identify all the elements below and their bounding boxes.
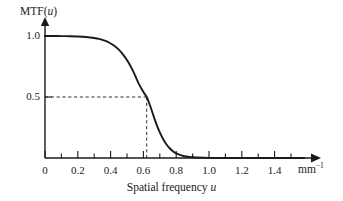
- x-axis-unit-base: mm: [298, 163, 316, 175]
- y-axis-title-close: ): [53, 5, 57, 17]
- y-axis: [41, 17, 49, 158]
- x-tick-label-0.6: 0.6: [128, 165, 158, 176]
- x-tick-label-1.4: 1.4: [260, 165, 290, 176]
- x-axis-unit-exponent: −1: [316, 161, 324, 170]
- x-tick-label-1.0: 1.0: [194, 165, 224, 176]
- mtf-figure: MTF(u) 1.0 0.5 0 0.2 0.4 0.6 0.8 1.0 1.2…: [0, 0, 343, 201]
- x-axis-ticks: [45, 151, 291, 158]
- y-tick-label-1.0: 1.0: [14, 30, 40, 41]
- x-axis-title-main: Spatial frequency: [127, 181, 211, 193]
- y-tick-label-0.5: 0.5: [14, 91, 40, 102]
- x-tick-label-0.2: 0.2: [63, 165, 93, 176]
- half-amplitude-guide: [45, 97, 147, 158]
- x-tick-label-0: 0: [30, 165, 60, 176]
- y-axis-arrowhead: [41, 17, 49, 26]
- x-tick-label-0.8: 0.8: [161, 165, 191, 176]
- x-axis-title-variable: u: [210, 181, 216, 193]
- x-tick-label-1.2: 1.2: [227, 165, 257, 176]
- mtf-curve: [45, 36, 304, 158]
- x-axis-title: Spatial frequency u: [0, 182, 343, 194]
- y-axis-title-main: MTF(: [20, 5, 47, 17]
- y-axis-ticks: [45, 36, 52, 97]
- x-axis-unit-label: mm−1: [298, 164, 324, 176]
- x-tick-label-0.4: 0.4: [96, 165, 126, 176]
- y-axis-title: MTF(u): [20, 6, 57, 18]
